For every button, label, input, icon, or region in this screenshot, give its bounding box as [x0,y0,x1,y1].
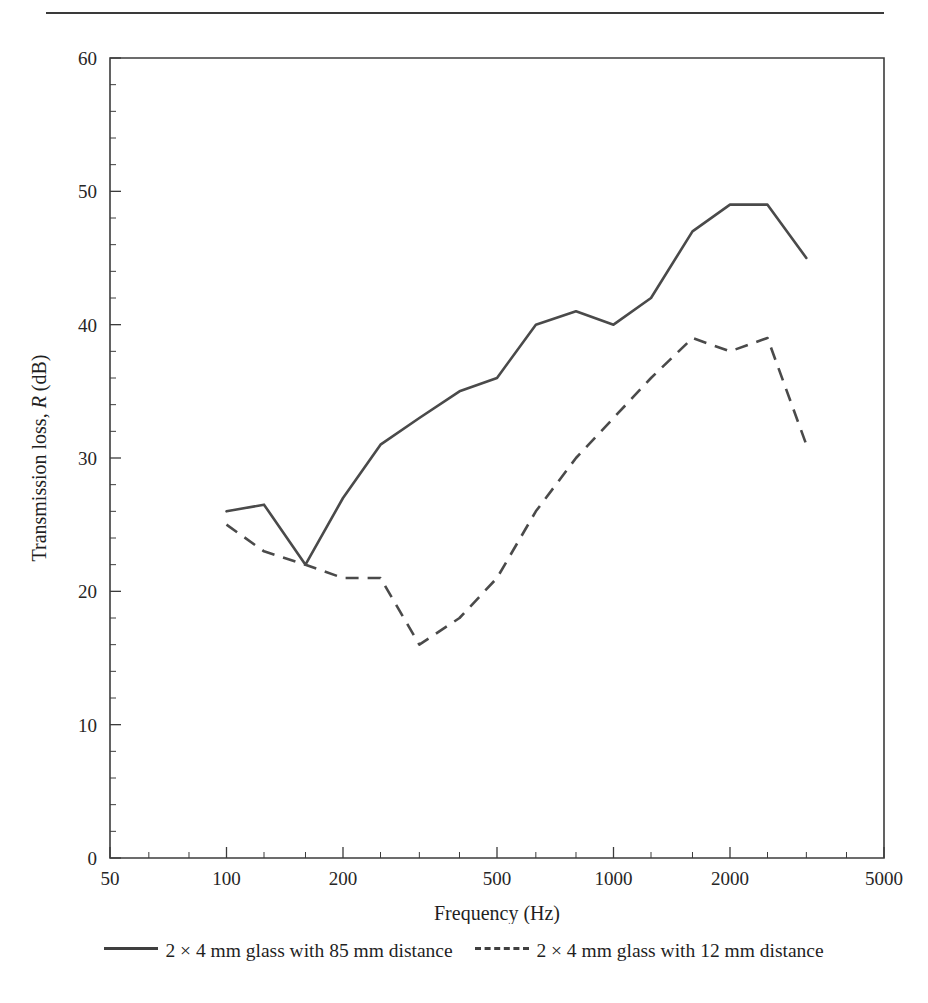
y-axis-tick-label: 10 [78,715,97,736]
chart-legend: 2 × 4 mm glass with 85 mm distance 2 × 4… [0,938,928,962]
x-axis-tick-label: 2000 [711,868,749,889]
chart-figure: 010203040506050100200500100020005000Freq… [0,24,928,924]
y-axis-tick-label: 50 [78,181,97,202]
y-axis-tick-label: 0 [88,848,98,869]
transmission-loss-line-chart: 010203040506050100200500100020005000Freq… [0,24,928,924]
data-series-2-dashed [227,338,807,645]
y-axis-tick-label: 20 [78,581,97,602]
x-axis-tick-label: 50 [101,868,120,889]
legend-swatch-dashed-icon [475,947,529,950]
x-axis-tick-label: 200 [329,868,358,889]
y-axis-tick-label: 60 [78,48,97,69]
legend-swatch-solid-icon [104,947,158,950]
y-axis-tick-label: 40 [78,315,97,336]
top-horizontal-rule [46,12,884,14]
legend-label-dashed: 2 × 4 mm glass with 12 mm distance [536,940,823,962]
legend-entry-dashed: 2 × 4 mm glass with 12 mm distance [475,939,823,963]
y-axis-title: Transmission loss, R (dB) [28,354,51,561]
plot-frame [110,58,884,858]
x-axis-tick-label: 5000 [865,868,903,889]
x-axis-tick-label: 1000 [594,868,632,889]
x-axis-title: Frequency (Hz) [434,902,560,924]
data-series-1-solid [227,205,807,565]
y-axis-tick-label: 30 [78,448,97,469]
legend-entry-solid: 2 × 4 mm glass with 85 mm distance [104,939,452,963]
x-axis-tick-label: 500 [483,868,512,889]
figure-page: 010203040506050100200500100020005000Freq… [0,0,928,1003]
legend-label-solid: 2 × 4 mm glass with 85 mm distance [165,940,452,962]
x-axis-tick-label: 100 [212,868,241,889]
